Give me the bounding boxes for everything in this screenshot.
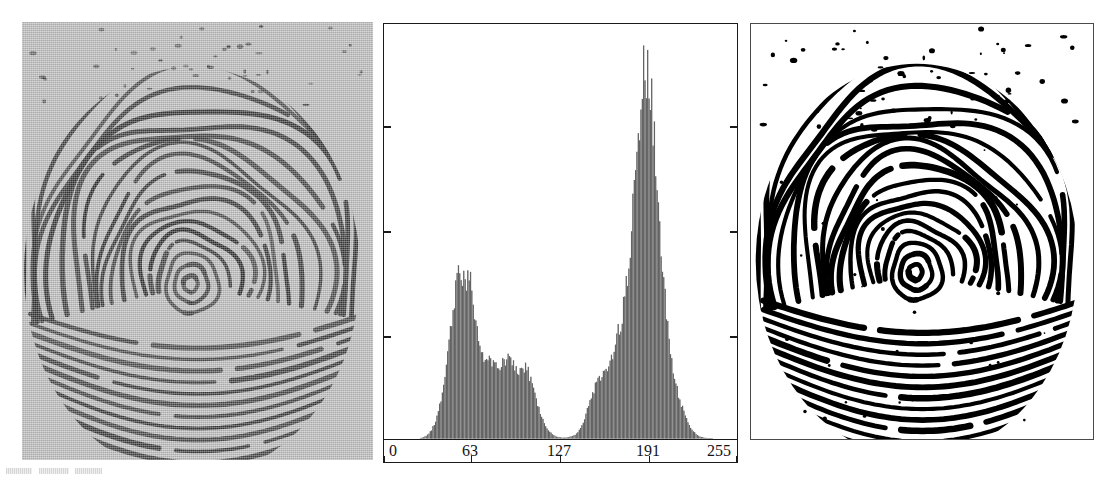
y-axis-tick-right-3 — [730, 336, 737, 338]
y-axis-tick-right-2 — [730, 231, 737, 233]
histogram-plot-frame — [383, 23, 738, 440]
scan-artifact-mark-2 — [39, 468, 69, 474]
x-axis-label-63: 63 — [462, 441, 478, 461]
x-axis-label-191: 191 — [636, 441, 660, 461]
y-axis-tick-left-3 — [384, 336, 391, 338]
binarized-fingerprint-ridges — [751, 24, 1093, 439]
binarized-fingerprint-image — [750, 23, 1094, 440]
x-axis-tick-191 — [649, 456, 650, 462]
x-axis-label-255: 255 — [707, 441, 731, 461]
x-axis-tick-255 — [736, 456, 737, 462]
histogram-bars — [384, 24, 737, 439]
x-axis-tick-0 — [384, 456, 385, 462]
histogram-x-axis-strip: 0 63 127 191 255 — [383, 440, 738, 463]
gray-level-histogram-panel: 0 63 127 191 255 — [383, 23, 738, 463]
x-axis-label-0: 0 — [389, 441, 397, 461]
scan-artifact-mark-3 — [75, 468, 102, 474]
scan-artifact-mark-1 — [6, 468, 32, 474]
grayscale-fingerprint-ridges — [22, 22, 373, 460]
x-axis-label-127: 127 — [547, 441, 571, 461]
original-grayscale-fingerprint-image — [22, 22, 373, 460]
y-axis-tick-left-1 — [384, 126, 391, 128]
scan-edge-artifact — [6, 468, 102, 475]
y-axis-tick-right-1 — [730, 126, 737, 128]
x-axis-tick-63 — [471, 456, 472, 462]
x-axis-tick-127 — [560, 456, 561, 462]
y-axis-tick-left-2 — [384, 231, 391, 233]
